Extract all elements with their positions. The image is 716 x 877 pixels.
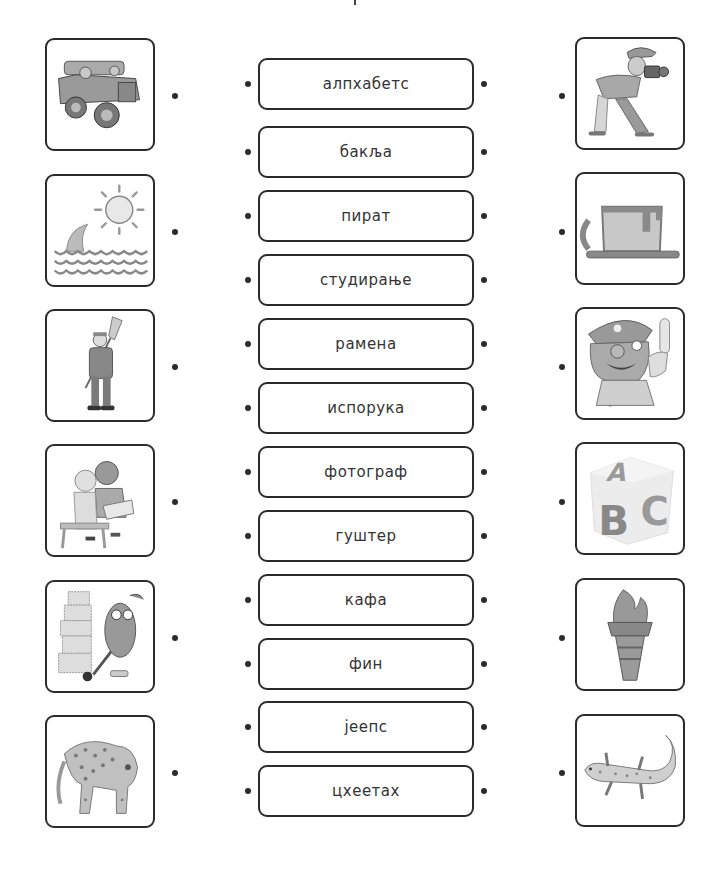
lizard-icon bbox=[577, 716, 683, 825]
word-right-dot-2[interactable] bbox=[481, 149, 487, 155]
left-image-dot-4[interactable] bbox=[172, 499, 178, 505]
photographer-image[interactable] bbox=[575, 37, 685, 150]
word-left-dot-7[interactable] bbox=[245, 469, 251, 475]
svg-text:C: C bbox=[641, 489, 669, 534]
left-image-dot-3[interactable] bbox=[172, 364, 178, 370]
shark-fin-icon bbox=[47, 176, 153, 285]
word-right-dot-5[interactable] bbox=[481, 341, 487, 347]
torch-icon bbox=[577, 580, 683, 689]
word-box[interactable]: гуштер bbox=[258, 510, 474, 562]
word-right-dot-10[interactable] bbox=[481, 661, 487, 667]
word-box[interactable]: јеепс bbox=[258, 701, 474, 753]
janitor-image[interactable] bbox=[45, 309, 155, 422]
coffee-cup-icon bbox=[577, 174, 683, 283]
left-image-dot-5[interactable] bbox=[172, 635, 178, 641]
word-right-dot-11[interactable] bbox=[481, 724, 487, 730]
pirate-icon bbox=[577, 309, 683, 418]
word-box[interactable]: пират bbox=[258, 190, 474, 242]
shark-fin-image[interactable] bbox=[45, 174, 155, 287]
left-image-dot-2[interactable] bbox=[172, 229, 178, 235]
word-box[interactable]: бакља bbox=[258, 126, 474, 178]
word-right-dot-4[interactable] bbox=[481, 277, 487, 283]
word-right-dot-7[interactable] bbox=[481, 469, 487, 475]
left-image-dot-1[interactable] bbox=[172, 93, 178, 99]
right-image-dot-6[interactable] bbox=[559, 770, 565, 776]
word-left-dot-4[interactable] bbox=[245, 277, 251, 283]
abc-block-icon: A B C bbox=[577, 444, 683, 553]
left-image-dot-6[interactable] bbox=[172, 770, 178, 776]
word-left-dot-9[interactable] bbox=[245, 597, 251, 603]
word-right-dot-6[interactable] bbox=[481, 405, 487, 411]
word-left-dot-3[interactable] bbox=[245, 213, 251, 219]
word-left-dot-1[interactable] bbox=[245, 81, 251, 87]
jeep-image[interactable] bbox=[45, 38, 155, 151]
lizard-image[interactable] bbox=[575, 714, 685, 827]
coffee-cup-image[interactable] bbox=[575, 172, 685, 285]
word-box[interactable]: фин bbox=[258, 638, 474, 690]
children-reading-image[interactable] bbox=[45, 444, 155, 557]
word-right-dot-3[interactable] bbox=[481, 213, 487, 219]
pirate-image[interactable] bbox=[575, 307, 685, 420]
right-image-dot-1[interactable] bbox=[559, 93, 565, 99]
right-image-dot-4[interactable] bbox=[559, 499, 565, 505]
word-box[interactable]: цхеетах bbox=[258, 765, 474, 817]
right-image-dot-5[interactable] bbox=[559, 635, 565, 641]
photographer-icon bbox=[577, 39, 683, 148]
word-right-dot-12[interactable] bbox=[481, 788, 487, 794]
word-box[interactable]: фотограф bbox=[258, 446, 474, 498]
word-box[interactable]: студирање bbox=[258, 254, 474, 306]
word-right-dot-8[interactable] bbox=[481, 533, 487, 539]
word-box[interactable]: алпхабетс bbox=[258, 58, 474, 110]
word-left-dot-5[interactable] bbox=[245, 341, 251, 347]
delivery-man-icon bbox=[47, 582, 153, 691]
word-left-dot-6[interactable] bbox=[245, 405, 251, 411]
word-right-dot-9[interactable] bbox=[481, 597, 487, 603]
children-reading-icon bbox=[47, 446, 153, 555]
word-box[interactable]: испорука bbox=[258, 382, 474, 434]
word-right-dot-1[interactable] bbox=[481, 81, 487, 87]
word-left-dot-8[interactable] bbox=[245, 533, 251, 539]
cheetah-icon bbox=[47, 717, 153, 826]
janitor-icon bbox=[47, 311, 153, 420]
jeep-icon bbox=[47, 40, 153, 149]
word-left-dot-12[interactable] bbox=[245, 788, 251, 794]
right-image-dot-3[interactable] bbox=[559, 364, 565, 370]
abc-block-image[interactable]: A B C bbox=[575, 442, 685, 555]
svg-text:B: B bbox=[598, 497, 629, 545]
word-left-dot-11[interactable] bbox=[245, 724, 251, 730]
torch-image[interactable] bbox=[575, 578, 685, 691]
word-box[interactable]: рамена bbox=[258, 318, 474, 370]
delivery-man-image[interactable] bbox=[45, 580, 155, 693]
page-mark bbox=[354, 0, 356, 5]
word-left-dot-10[interactable] bbox=[245, 661, 251, 667]
word-box[interactable]: кафа bbox=[258, 574, 474, 626]
cheetah-image[interactable] bbox=[45, 715, 155, 828]
word-left-dot-2[interactable] bbox=[245, 149, 251, 155]
right-image-dot-2[interactable] bbox=[559, 229, 565, 235]
